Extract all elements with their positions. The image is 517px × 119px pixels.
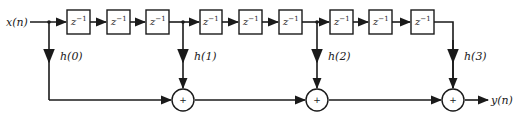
plus-icon: + <box>449 95 457 105</box>
delay-box-7: z−1 <box>330 10 353 34</box>
delay-box-5: z−1 <box>239 10 262 34</box>
delay-box-1: z−1 <box>67 10 90 34</box>
plus-icon: + <box>313 95 321 105</box>
plus-icon: + <box>179 95 187 105</box>
delay-box-4: z−1 <box>200 10 222 34</box>
delay-box-2: z−1 <box>107 10 130 34</box>
fir-filter-diagram: x(n) <box>0 0 517 119</box>
tap-label-h0: h(0) <box>60 50 83 63</box>
input-label: x(n) <box>6 16 28 29</box>
tap-label-h3: h(3) <box>464 50 487 63</box>
delay-box-9: z−1 <box>411 10 434 34</box>
tap-label-h2: h(2) <box>328 50 351 63</box>
delay-box-3: z−1 <box>146 10 169 34</box>
adder-1: + <box>172 89 194 111</box>
adder-2: + <box>306 89 328 111</box>
output-label: y(n) <box>490 94 513 107</box>
delay-box-8: z−1 <box>369 10 392 34</box>
tap-label-h1: h(1) <box>194 50 217 63</box>
delay-box-6: z−1 <box>279 10 302 34</box>
adder-3: + <box>442 89 464 111</box>
